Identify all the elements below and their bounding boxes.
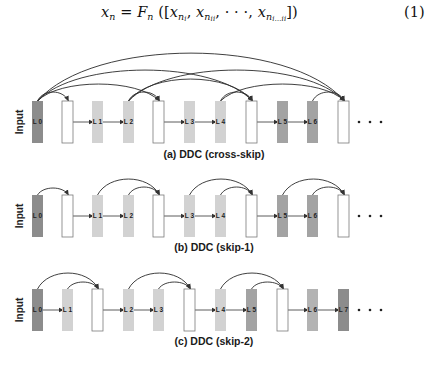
layer-label: L 3 (154, 306, 164, 313)
concat-block (338, 101, 349, 143)
input-label: Input (14, 109, 25, 134)
layer-label: L 6 (308, 306, 318, 313)
ellipsis-dot (358, 309, 361, 312)
layer-label: L 4 (216, 306, 226, 313)
ellipsis-dot (358, 215, 361, 218)
concat-block (92, 289, 103, 331)
input-label: Input (14, 297, 25, 322)
layer-label: L 1 (63, 306, 73, 313)
layer-label: L 2 (124, 212, 134, 219)
ellipsis-dot (369, 121, 372, 124)
layer-label: L 6 (308, 212, 318, 219)
skip-connection-arc (129, 273, 191, 289)
panel-c: InputL 0L 1L 2L 3L 4L 5L 6L 7(c) DDC (sk… (14, 273, 382, 347)
ellipsis-dot (380, 121, 383, 124)
panel-a: InputL 0L 1L 2L 3L 4L 5L 6(a) DDC (cross… (14, 53, 382, 160)
ellipsis-dot (369, 215, 372, 218)
skip-connection-arc (283, 179, 345, 195)
concat-block (246, 101, 257, 143)
panel-caption: (a) DDC (cross-skip) (164, 148, 265, 160)
concat-block (246, 195, 257, 237)
panel-caption: (b) DDC (skip-1) (174, 241, 253, 253)
concat-block (277, 289, 288, 331)
concat-block (153, 101, 164, 143)
layer-label: L 0 (33, 118, 43, 125)
layer-label: L 4 (216, 118, 226, 125)
skip-connection-arc (98, 179, 160, 195)
ellipsis-dot (380, 215, 383, 218)
skip-connection-arc (38, 273, 99, 289)
layer-label: L 7 (339, 306, 349, 313)
layer-label: L 2 (124, 118, 134, 125)
panel-b: InputL 0L 1L 2L 3L 4L 5L 6(b) DDC (skip-… (14, 179, 382, 253)
layer-label: L 1 (93, 212, 103, 219)
concat-block (184, 289, 195, 331)
skip-connection-arc (221, 273, 284, 289)
layer-label: L 5 (247, 306, 257, 313)
layer-label: L 3 (185, 118, 195, 125)
layer-label: L 5 (278, 118, 288, 125)
ellipsis-dot (369, 309, 372, 312)
panel-caption: (c) DDC (skip-2) (175, 335, 254, 347)
layer-label: L 3 (185, 212, 195, 219)
layer-label: L 1 (93, 118, 103, 125)
layer-label: L 5 (278, 212, 288, 219)
concat-block (338, 195, 349, 237)
concat-block (153, 195, 164, 237)
skip-connection-arc (38, 70, 253, 101)
skip-connection-arc (38, 188, 69, 195)
layer-label: L 2 (124, 306, 134, 313)
skip-connection-arc (129, 70, 345, 101)
input-label: Input (14, 203, 25, 228)
layer-label: L 6 (308, 118, 318, 125)
skip-connection-arc (129, 79, 253, 101)
concat-block (62, 101, 73, 143)
skip-connection-arc (190, 179, 253, 195)
ddc-figure: InputL 0L 1L 2L 3L 4L 5L 6(a) DDC (cross… (0, 0, 429, 365)
ellipsis-dot (380, 309, 383, 312)
layer-label: L 0 (33, 306, 43, 313)
layer-label: L 0 (33, 212, 43, 219)
figure-panels: InputL 0L 1L 2L 3L 4L 5L 6(a) DDC (cross… (14, 53, 382, 347)
ellipsis-dot (358, 121, 361, 124)
layer-label: L 4 (216, 212, 226, 219)
concat-block (62, 195, 73, 237)
